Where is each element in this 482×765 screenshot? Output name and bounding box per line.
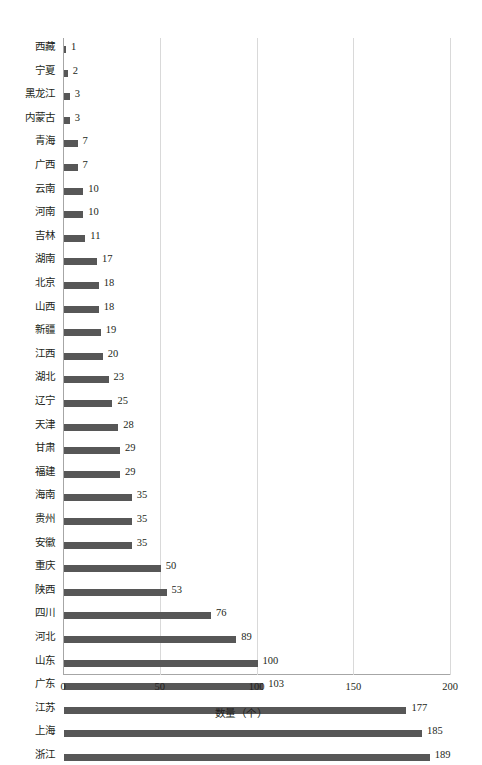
category-label: 安徽 (0, 537, 55, 549)
x-tick-50: 50 (155, 681, 166, 693)
category-label: 河南 (0, 206, 55, 218)
category-label: 江西 (0, 348, 55, 360)
bar-value-label: 3 (75, 112, 80, 124)
x-tick-150: 150 (345, 681, 361, 693)
bar-row: 19 (63, 321, 450, 345)
category-label: 辽宁 (0, 395, 55, 407)
bar (64, 282, 99, 289)
bar (64, 329, 101, 336)
bar-value-label: 25 (117, 395, 128, 407)
bar-row: 50 (63, 557, 450, 581)
x-tick-0: 0 (60, 681, 65, 693)
bar (64, 542, 132, 549)
bar (64, 235, 85, 242)
bar-row: 53 (63, 581, 450, 605)
bar-value-label: 29 (125, 466, 136, 478)
category-label: 重庆 (0, 560, 55, 572)
category-label: 新疆 (0, 324, 55, 336)
bar-row: 7 (63, 132, 450, 156)
bar-row: 11 (63, 227, 450, 251)
bar-value-label: 189 (435, 749, 451, 761)
category-label: 上海 (0, 725, 55, 737)
bar-value-label: 76 (216, 607, 227, 619)
bar (64, 93, 70, 100)
bar (64, 424, 118, 431)
bar-value-label: 29 (125, 442, 136, 454)
bar-row: 189 (63, 746, 450, 765)
bar-value-label: 35 (137, 489, 148, 501)
bar-row: 23 (63, 368, 450, 392)
bar-row: 10 (63, 180, 450, 204)
bar-value-label: 20 (108, 348, 119, 360)
bar-value-label: 11 (90, 230, 100, 242)
bar-value-label: 3 (75, 88, 80, 100)
bar-row: 1 (63, 38, 450, 62)
bar (64, 376, 109, 383)
category-label: 宁夏 (0, 65, 55, 77)
bar-value-label: 1 (71, 41, 76, 53)
category-label: 内蒙古 (0, 112, 55, 124)
bar-value-label: 100 (263, 655, 279, 667)
bar (64, 589, 167, 596)
plot-area: 1233771010111718181920232528292935353550… (63, 38, 450, 675)
bar-row: 2 (63, 62, 450, 86)
bar-value-label: 28 (123, 419, 134, 431)
bar-row: 29 (63, 463, 450, 487)
bar (64, 164, 78, 171)
bar-row: 35 (63, 486, 450, 510)
bar-value-label: 53 (172, 584, 183, 596)
category-label: 吉林 (0, 230, 55, 242)
category-label: 浙江 (0, 749, 55, 761)
bar (64, 565, 161, 572)
bar-value-label: 10 (88, 206, 99, 218)
bar (64, 471, 120, 478)
bar-value-label: 7 (83, 159, 88, 171)
bar (64, 140, 78, 147)
bar-row: 18 (63, 298, 450, 322)
category-label: 西藏 (0, 41, 55, 53)
bar-row: 18 (63, 274, 450, 298)
category-label: 北京 (0, 277, 55, 289)
bar-row: 17 (63, 250, 450, 274)
category-label: 四川 (0, 607, 55, 619)
bar (64, 400, 112, 407)
x-tick-200: 200 (442, 681, 458, 693)
category-label: 山东 (0, 655, 55, 667)
bar (64, 518, 132, 525)
bar-row: 29 (63, 439, 450, 463)
bar-row: 35 (63, 510, 450, 534)
bar-value-label: 50 (166, 560, 177, 572)
bar-row: 3 (63, 109, 450, 133)
bar-row: 185 (63, 722, 450, 746)
x-axis-title: 数量（个） (0, 707, 482, 720)
category-label: 贵州 (0, 513, 55, 525)
bar (64, 306, 99, 313)
bar (64, 660, 258, 667)
category-label: 海南 (0, 489, 55, 501)
bar (64, 636, 236, 643)
bar (64, 258, 97, 265)
category-label: 黑龙江 (0, 88, 55, 100)
bar-value-label: 35 (137, 537, 148, 549)
category-label: 云南 (0, 183, 55, 195)
bar (64, 117, 70, 124)
bar-row: 7 (63, 156, 450, 180)
bar-value-label: 18 (104, 301, 115, 313)
gridline-200 (450, 38, 451, 675)
bar (64, 70, 68, 77)
bar-row: 35 (63, 534, 450, 558)
category-label: 山西 (0, 301, 55, 313)
bar (64, 754, 430, 761)
bar-row: 100 (63, 652, 450, 676)
category-label: 青海 (0, 135, 55, 147)
bar-row: 28 (63, 416, 450, 440)
bar-value-label: 2 (73, 65, 78, 77)
category-label: 广西 (0, 159, 55, 171)
bar (64, 353, 103, 360)
category-label: 福建 (0, 466, 55, 478)
bar-row: 76 (63, 604, 450, 628)
bar (64, 730, 422, 737)
bar-value-label: 185 (427, 725, 443, 737)
bar-value-label: 89 (241, 631, 252, 643)
bar (64, 494, 132, 501)
